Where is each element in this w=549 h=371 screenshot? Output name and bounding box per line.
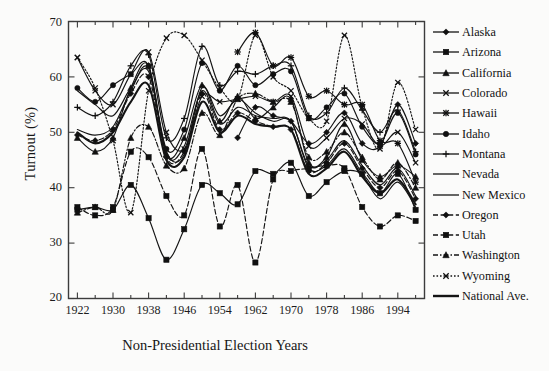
x-tick-label-1930: 1930: [93, 303, 133, 318]
legend-diamond-marker: [432, 25, 460, 39]
series-washington: [74, 90, 418, 215]
legend-item-colorado[interactable]: Colorado: [432, 83, 549, 103]
x-tick-label-1946: 1946: [164, 303, 204, 318]
legend-item-utah[interactable]: Utah: [432, 225, 549, 245]
legend-x-marker: [432, 269, 460, 283]
legend-triangle-marker: [432, 66, 460, 80]
legend-circle-marker: [432, 127, 460, 141]
legend-square-marker: [432, 228, 460, 242]
legend-item-alaska[interactable]: Alaska: [432, 22, 549, 42]
series-oregon: [74, 74, 418, 202]
plot-frame: [69, 22, 425, 299]
legend-item-national-ave[interactable]: National Ave.: [432, 286, 549, 306]
legend-label: Alaska: [460, 25, 496, 39]
series-alaska: [235, 102, 419, 150]
legend-label: Colorado: [460, 86, 507, 100]
y-tick-label-50: 50: [28, 127, 62, 138]
series-arizona: [75, 160, 418, 262]
legend-item-wyoming[interactable]: Wyoming: [432, 266, 549, 286]
x-tick-label-1938: 1938: [129, 303, 169, 318]
legend: AlaskaArizonaCaliforniaColoradoHawaiiIda…: [432, 22, 549, 306]
series-utah: [75, 146, 418, 265]
legend-label: Oregon: [460, 208, 499, 222]
y-tick-label-40: 40: [28, 182, 62, 193]
data-series-layer: [74, 29, 419, 265]
legend-line-sample: [432, 289, 460, 303]
series-idaho: [75, 60, 418, 157]
legend-line-sample: [432, 188, 460, 202]
legend-item-new-mexico[interactable]: New Mexico: [432, 184, 549, 204]
legend-item-california[interactable]: California: [432, 63, 549, 83]
legend-item-idaho[interactable]: Idaho: [432, 123, 549, 143]
series-nevada: [77, 68, 415, 207]
legend-plus-marker: [432, 147, 460, 161]
legend-label: Hawaii: [460, 106, 497, 120]
x-tick-label-1978: 1978: [307, 303, 347, 318]
series-new-mexico: [77, 66, 415, 196]
legend-square-marker: [432, 45, 460, 59]
y-tick-label-60: 60: [28, 72, 62, 83]
y-tick-label-30: 30: [28, 237, 62, 248]
series-wyoming: [75, 32, 418, 215]
x-tick-label-1962: 1962: [235, 303, 275, 318]
legend-label: California: [460, 66, 511, 80]
x-tick-label-1986: 1986: [342, 303, 382, 318]
series-national-ave: [77, 82, 415, 204]
legend-triangle-marker: [432, 248, 460, 262]
legend-diamond-marker: [432, 208, 460, 222]
legend-label: Idaho: [460, 127, 490, 141]
chart-figure: Turnout (%) Non-Presidential Election Ye…: [0, 0, 549, 371]
series-colorado: [75, 49, 418, 165]
legend-star-marker: [432, 106, 460, 120]
legend-x-marker: [432, 86, 460, 100]
legend-item-hawaii[interactable]: Hawaii: [432, 103, 549, 123]
legend-item-arizona[interactable]: Arizona: [432, 42, 549, 62]
legend-label: National Ave.: [460, 289, 529, 303]
x-tick-label-1954: 1954: [200, 303, 240, 318]
y-tick-label-70: 70: [28, 17, 62, 28]
x-tick-label-1994: 1994: [378, 303, 418, 318]
legend-label: Wyoming: [460, 269, 510, 283]
legend-label: Washington: [460, 248, 520, 262]
legend-label: Arizona: [460, 45, 501, 59]
y-axis-title: Turnout (%): [22, 34, 39, 254]
axis-ticks: [69, 22, 425, 299]
series-hawaii: [234, 29, 418, 185]
legend-item-nevada[interactable]: Nevada: [432, 164, 549, 184]
legend-label: Nevada: [460, 167, 499, 181]
legend-label: Utah: [460, 228, 486, 242]
x-axis-title: Non-Presidential Election Years: [0, 337, 430, 354]
legend-line-sample: [432, 167, 460, 181]
legend-label: New Mexico: [460, 188, 525, 202]
legend-label: Montana: [460, 147, 505, 161]
legend-item-montana[interactable]: Montana: [432, 144, 549, 164]
x-tick-label-1970: 1970: [271, 303, 311, 318]
series-california: [74, 63, 418, 180]
legend-item-oregon[interactable]: Oregon: [432, 205, 549, 225]
x-tick-label-1922: 1922: [57, 303, 97, 318]
y-tick-label-20: 20: [28, 292, 62, 303]
legend-item-washington[interactable]: Washington: [432, 245, 549, 265]
series-montana: [74, 43, 419, 155]
